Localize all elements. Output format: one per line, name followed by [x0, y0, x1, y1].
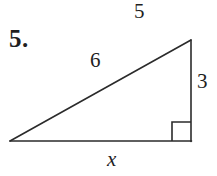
- figure-root: 5. 5 6 3 x: [0, 0, 217, 176]
- top-numeral-label: 5: [134, 1, 145, 22]
- hypotenuse-length-label: 6: [90, 50, 101, 71]
- right-angle-marker-icon: [172, 122, 191, 141]
- hypotenuse-line: [10, 40, 191, 141]
- vertical-leg-length-label: 3: [197, 71, 208, 92]
- horizontal-leg-length-label: x: [107, 149, 116, 170]
- problem-number-label: 5.: [9, 26, 29, 51]
